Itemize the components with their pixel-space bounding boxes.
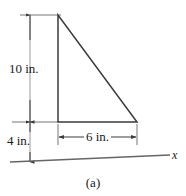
dimension-label-offset: 4 in. (7, 134, 30, 147)
figure-caption: (a) (0, 176, 186, 189)
x-axis-line (10, 155, 170, 162)
dimension-label-base: 6 in. (84, 130, 111, 143)
x-axis-label: x (172, 149, 177, 161)
figure-drawing-canvas (0, 0, 186, 196)
triangle-outline (58, 15, 137, 122)
dimension-label-height: 10 in. (9, 62, 39, 75)
figure-triangle-on-axis: 10 in. 4 in. 6 in. x (a) (0, 0, 186, 196)
